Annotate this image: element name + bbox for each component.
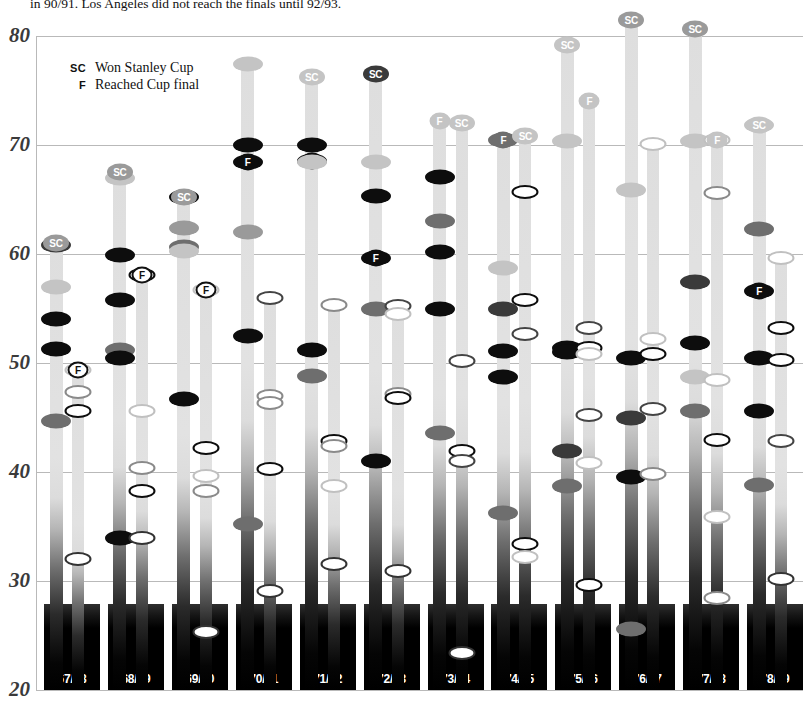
data-point-marker[interactable]: [233, 138, 263, 153]
data-point-marker[interactable]: [576, 321, 603, 335]
data-point-marker[interactable]: [768, 251, 795, 265]
team-bar[interactable]: [264, 298, 276, 690]
data-point-marker[interactable]: [768, 572, 795, 586]
data-point-marker[interactable]: [704, 510, 731, 524]
data-point-marker[interactable]: [616, 182, 646, 197]
data-point-marker[interactable]: [425, 214, 455, 229]
data-point-marker[interactable]: [448, 454, 475, 468]
data-point-marker[interactable]: [512, 537, 539, 551]
data-point-marker[interactable]: [297, 138, 327, 153]
data-point-marker[interactable]: [361, 155, 391, 170]
team-bar[interactable]: [136, 275, 148, 690]
data-point-marker[interactable]: [384, 391, 411, 405]
data-point-marker[interactable]: [680, 336, 710, 351]
team-bar[interactable]: [50, 243, 63, 690]
data-point-marker[interactable]: [105, 350, 135, 365]
team-bar[interactable]: [689, 29, 702, 690]
data-point-marker[interactable]: [297, 342, 327, 357]
data-point-marker[interactable]: [576, 347, 603, 361]
team-bar[interactable]: [711, 140, 723, 690]
data-point-marker[interactable]: [576, 408, 603, 422]
data-point-marker[interactable]: [744, 221, 774, 236]
data-point-marker[interactable]: [640, 347, 667, 361]
data-point-marker[interactable]: [384, 564, 411, 578]
team-bar[interactable]: [433, 121, 446, 690]
data-point-marker[interactable]: [704, 591, 731, 605]
data-point-marker[interactable]: [41, 341, 71, 356]
data-point-marker[interactable]: [425, 301, 455, 316]
data-point-marker[interactable]: [488, 261, 518, 276]
data-point-marker[interactable]: [361, 189, 391, 204]
data-point-marker[interactable]: [128, 461, 155, 475]
data-point-marker[interactable]: [256, 462, 283, 476]
team-bar[interactable]: [456, 123, 468, 690]
team-bar[interactable]: [519, 136, 531, 690]
data-point-marker[interactable]: [233, 225, 263, 240]
data-point-marker[interactable]: [768, 353, 795, 367]
data-point-marker[interactable]: [41, 279, 71, 294]
data-point-marker[interactable]: [640, 402, 667, 416]
data-point-marker[interactable]: [576, 578, 603, 592]
data-point-marker[interactable]: [65, 385, 92, 399]
data-point-marker[interactable]: [128, 404, 155, 418]
data-point-marker[interactable]: [320, 557, 347, 571]
data-point-marker[interactable]: [704, 433, 731, 447]
data-point-marker[interactable]: [320, 439, 347, 453]
data-point-marker[interactable]: [552, 133, 582, 148]
team-bar[interactable]: [497, 140, 510, 690]
data-point-marker[interactable]: [768, 321, 795, 335]
data-point-marker[interactable]: [744, 403, 774, 418]
data-point-marker[interactable]: [320, 479, 347, 493]
data-point-marker[interactable]: [512, 185, 539, 199]
team-bar[interactable]: [647, 144, 659, 690]
data-point-marker[interactable]: [640, 137, 667, 151]
data-point-marker[interactable]: [105, 248, 135, 263]
team-bar[interactable]: [392, 306, 404, 690]
data-point-marker[interactable]: [640, 467, 667, 481]
data-point-marker[interactable]: [297, 369, 327, 384]
data-point-marker[interactable]: [704, 373, 731, 387]
data-point-marker[interactable]: [552, 444, 582, 459]
team-bar[interactable]: [583, 101, 595, 690]
data-point-marker[interactable]: [192, 469, 219, 483]
data-point-marker[interactable]: [576, 456, 603, 470]
data-point-marker[interactable]: [233, 517, 263, 532]
data-point-marker[interactable]: [425, 244, 455, 259]
data-point-marker[interactable]: [768, 434, 795, 448]
data-point-marker[interactable]: [384, 307, 411, 321]
data-point-marker[interactable]: [65, 404, 92, 418]
data-point-marker[interactable]: [192, 441, 219, 455]
data-point-marker[interactable]: [169, 220, 199, 235]
data-point-marker[interactable]: [256, 291, 283, 305]
data-point-marker[interactable]: [512, 550, 539, 564]
data-point-marker[interactable]: [680, 275, 710, 290]
data-point-marker[interactable]: [425, 169, 455, 184]
data-point-marker[interactable]: [256, 396, 283, 410]
data-point-marker[interactable]: [425, 425, 455, 440]
data-point-marker[interactable]: [512, 293, 539, 307]
data-point-marker[interactable]: [616, 621, 646, 636]
data-point-marker[interactable]: [128, 484, 155, 498]
data-point-marker[interactable]: [65, 552, 92, 566]
data-point-marker[interactable]: [448, 354, 475, 368]
team-bar[interactable]: [328, 305, 340, 690]
data-point-marker[interactable]: [704, 186, 731, 200]
data-point-marker[interactable]: [320, 298, 347, 312]
data-point-marker[interactable]: [233, 328, 263, 343]
data-point-marker[interactable]: [169, 243, 199, 258]
data-point-marker[interactable]: [552, 479, 582, 494]
data-point-marker[interactable]: [297, 155, 327, 170]
data-point-marker[interactable]: [169, 391, 199, 406]
data-point-marker[interactable]: [488, 370, 518, 385]
data-point-marker[interactable]: [488, 506, 518, 521]
data-point-marker[interactable]: [128, 531, 155, 545]
data-point-marker[interactable]: [256, 584, 283, 598]
data-point-marker[interactable]: [233, 57, 263, 72]
data-point-marker[interactable]: [744, 478, 774, 493]
data-point-marker[interactable]: [192, 625, 219, 639]
data-point-marker[interactable]: [192, 484, 219, 498]
data-point-marker[interactable]: [640, 332, 667, 346]
data-point-marker[interactable]: [448, 646, 475, 660]
data-point-marker[interactable]: [488, 344, 518, 359]
data-point-marker[interactable]: [41, 413, 71, 428]
